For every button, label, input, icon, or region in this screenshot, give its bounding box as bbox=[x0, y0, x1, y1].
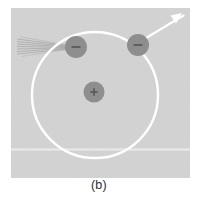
nucleus bbox=[84, 82, 105, 103]
figure-caption: (b) bbox=[0, 178, 198, 192]
figure-root: (b) bbox=[0, 0, 198, 200]
scattering-diagram bbox=[0, 0, 198, 200]
electron-emitting bbox=[127, 34, 149, 56]
electron-incident bbox=[65, 36, 87, 58]
